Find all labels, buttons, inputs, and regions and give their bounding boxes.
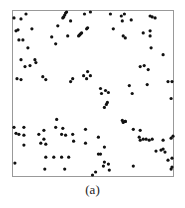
scatter-point [107,163,110,166]
scatter-point [170,166,173,169]
scatter-point [60,133,63,136]
scatter-point [14,132,17,135]
scatter-point [86,26,89,29]
scatter-point [128,84,131,87]
scatter-point [60,156,63,159]
scatter-point [12,126,15,129]
scatter-point [147,68,150,71]
scatter-point [64,134,67,137]
scatter-point [67,156,70,159]
scatter-point [69,19,72,22]
scatter-point [12,16,15,19]
scatter-point [56,24,59,27]
scatter-point [19,58,22,61]
scatter-point [86,70,89,73]
scatter-point [150,46,153,49]
scatter-point [170,137,173,140]
scatter-point [85,77,88,80]
scatter-point [162,53,165,56]
scatter-point [37,133,40,136]
scatter-point [33,58,36,61]
scatter-point [104,89,107,92]
scatter-point [109,12,112,15]
scatter-point [42,129,45,132]
scatter-point [24,12,27,15]
scatter-point [71,133,74,136]
scatter-point [100,92,103,95]
scatter-point [170,80,173,83]
scatter-point [21,38,24,41]
scatter-point [132,165,135,168]
scatter-point [83,12,86,15]
scatter-point [80,31,83,34]
scatter-point [19,17,22,20]
scatter-point [72,140,75,143]
scatter-point [121,119,124,122]
scatter-point [151,15,154,18]
scatter-point [13,162,16,165]
scatter-point [102,165,105,168]
scatter-point [166,159,169,162]
scatter-point [103,146,106,149]
scatter-point [142,31,145,34]
scatter-point [162,148,165,151]
scatter-point [142,138,145,141]
scatter-point [103,106,106,109]
scatter-point [19,78,22,81]
scatter-point [50,35,53,38]
scatter-point [61,127,64,130]
scatter-point [44,143,47,146]
scatter-point [151,138,154,141]
scatter-point [15,77,18,80]
scatter-point [39,142,42,145]
scatter-point [34,61,37,64]
scatter-point [139,139,142,142]
scatter-point [124,120,127,123]
scatter-point [97,136,100,139]
scatter-point [43,168,46,171]
scatter-point [138,136,141,139]
scatter-point [124,36,127,39]
scatter-point [149,34,152,37]
scatter-point [84,142,87,145]
scatter-point [148,139,151,142]
scatter-point [71,77,74,80]
scatter-point [66,34,69,37]
scatter-point [99,87,102,90]
scatter-point [69,80,72,83]
scatter-point [91,173,94,176]
scatter-point [41,75,44,78]
scatter-point [28,64,31,67]
scatter-point [139,129,142,132]
scatter-point [106,101,109,104]
scatter-point [107,91,110,94]
scatter-point [94,170,97,173]
scatter-point [17,133,20,136]
scatter-point [143,64,146,67]
scatter-point [163,151,166,154]
scatter-point [149,29,152,32]
scatter-point [30,27,33,30]
scatter-point [154,150,157,153]
scatter-point [82,74,85,77]
scatter-point [26,46,29,49]
scatter-point [120,14,123,17]
scatter-point [108,169,111,172]
scatter-point [84,128,87,131]
scatter-point [154,16,157,19]
scatter-point [44,156,47,159]
scatter-point [89,74,92,77]
scatter-point [121,19,124,22]
figure-caption: (a) [0,182,185,198]
scatter-point [42,138,45,141]
scatter-point [170,97,173,100]
scatter-point [22,134,25,137]
scatter-point [61,16,64,19]
scatter-point [54,42,57,45]
scatter-point [170,157,173,160]
scatter-point [63,168,66,171]
scatter-point [65,10,68,13]
scatter-point [130,18,133,21]
scatter-point [54,126,57,129]
scatter-point [131,92,134,95]
